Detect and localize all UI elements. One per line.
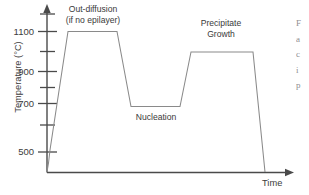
caption-fragment-line-5: p [296,78,309,94]
caption-fragment-line-2: a [296,32,309,48]
caption-text-fragment: F a c i p [296,16,309,94]
y-axis [43,4,50,173]
caption-fragment-line-1: F [296,16,309,32]
y-tick-label-500: 500 [8,147,34,157]
caption-fragment-line-4: i [296,63,309,79]
y-axis-title: Temperature (°C) [13,31,23,123]
chart-canvas [0,0,309,195]
annotation-precipitate-line1: Precipitate [190,18,252,28]
x-axis-arrow-icon [285,169,294,176]
temperature-profile-line [47,32,265,173]
y-axis-arrow-icon [43,4,50,13]
thermal-profile-figure: 1100 900 700 500 Temperature (°C) Time O… [0,0,309,195]
x-axis-title: Time [262,178,282,188]
x-axis [47,169,294,176]
annotation-nucleation: Nucleation [126,112,186,122]
caption-fragment-line-3: c [296,47,309,63]
annotation-precipitate-line2: Growth [190,29,252,39]
annotation-out-diffusion-line1: Out-diffusion [60,4,126,14]
annotation-out-diffusion-line2: (if no epilayer) [56,15,130,25]
